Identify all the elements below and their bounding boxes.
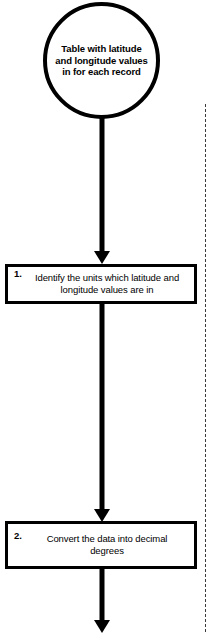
connector-arrow-step1-to-step2 [93, 302, 110, 522]
connector-arrow-step2-to-next [93, 567, 110, 633]
step-1-label: Identify the units which latitude and lo… [34, 272, 194, 297]
arrow-head-icon [94, 251, 110, 264]
arrow-shaft [99, 567, 104, 620]
flowchart-canvas: Table with latitude and longitude values… [0, 0, 211, 640]
step-1-number: 1. [8, 267, 34, 279]
arrow-head-icon [94, 620, 110, 633]
flowchart-node-step-2[interactable]: 2. Convert the data into decimal degrees [5, 521, 197, 569]
right-edge-dashed-guide [205, 104, 206, 632]
arrow-shaft [99, 302, 104, 509]
flowchart-node-start[interactable]: Table with latitude and longitude values… [43, 2, 160, 119]
arrow-shaft [99, 112, 104, 251]
start-node-label: Table with latitude and longitude values… [54, 43, 150, 78]
step-2-label: Convert the data into decimal degrees [34, 533, 194, 558]
connector-arrow-start-to-step1 [93, 112, 110, 264]
flowchart-node-step-1[interactable]: 1. Identify the units which latitude and… [5, 264, 197, 304]
step-2-number: 2. [8, 524, 34, 541]
